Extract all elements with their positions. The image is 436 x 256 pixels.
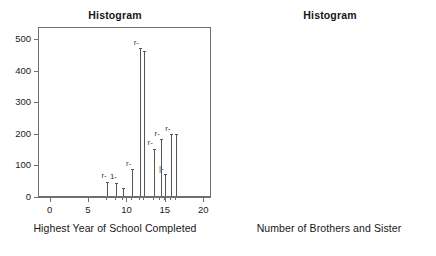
- x-tick-mark-minor: [143, 197, 144, 200]
- x-tick-mark-minor: [164, 197, 165, 200]
- x-tick-mark: [203, 197, 204, 202]
- x-tick-mark: [126, 197, 127, 202]
- histogram-panel-right: Histogram 0100200300 --1-1-r-1-1-1- 0510…: [218, 0, 436, 256]
- figure-canvas: Histogram 0100200300400500 r-1-r-r-r-r-|…: [0, 0, 436, 256]
- x-tick-mark-minor: [153, 197, 154, 200]
- histogram-bar: [171, 134, 172, 196]
- x-axis-label-right: Number of Brothers and Sister: [236, 222, 422, 234]
- bar-annotation: r-: [155, 130, 160, 138]
- x-tick-mark-minor: [122, 197, 123, 200]
- histogram-bar: [116, 183, 117, 196]
- bar-annotation: |-: [159, 165, 164, 173]
- y-tick-label: 400: [15, 65, 31, 77]
- x-tick-mark: [50, 197, 51, 202]
- x-tick-label: 0: [47, 204, 52, 216]
- y-axis-left: 0100200300400500: [0, 27, 38, 197]
- x-tick-mark-minor: [170, 197, 171, 200]
- bar-annotation: r-: [148, 139, 153, 147]
- plot-area-left: r-1-r-r-r-r-|-r-: [38, 27, 211, 197]
- x-axis-line: [38, 197, 211, 198]
- bar-annotation: r-: [101, 172, 106, 180]
- bar-annotation: r-: [126, 160, 131, 168]
- bar-annotation: r-: [134, 39, 139, 47]
- bar-annotation: r-: [165, 125, 170, 133]
- histogram-bar: [132, 169, 133, 196]
- x-axis-label-left: Highest Year of School Completed: [20, 222, 210, 234]
- x-tick-label: 5: [85, 204, 90, 216]
- x-tick-label: 15: [160, 204, 171, 216]
- chart-title-right: Histogram: [240, 9, 420, 21]
- histogram-bar: [123, 188, 124, 196]
- x-tick-mark-minor: [115, 197, 116, 200]
- y-tick-label: 200: [15, 128, 31, 140]
- x-tick-mark-minor: [131, 197, 132, 200]
- x-axis-left: 05101520: [38, 197, 211, 219]
- histogram-bar: [144, 51, 145, 196]
- y-tick-label: 100: [15, 159, 31, 171]
- histogram-bar: [107, 182, 108, 196]
- histogram-bar: [140, 48, 141, 196]
- bar-annotation: 1-: [110, 173, 117, 181]
- histogram-bar: [165, 174, 166, 196]
- x-tick-label: 20: [198, 204, 209, 216]
- y-tick-label: 300: [15, 96, 31, 108]
- y-tick-label: 500: [15, 33, 31, 45]
- x-tick-mark-minor: [175, 197, 176, 200]
- x-tick-mark-minor: [159, 197, 160, 200]
- histogram-bar: [154, 149, 155, 196]
- x-tick-mark: [88, 197, 89, 202]
- x-tick-label: 10: [121, 204, 132, 216]
- histogram-bar: [176, 134, 177, 196]
- y-tick-label: 0: [26, 191, 31, 203]
- histogram-panel-left: Histogram 0100200300400500 r-1-r-r-r-r-|…: [0, 0, 218, 256]
- x-tick-mark-minor: [106, 197, 107, 200]
- x-tick-mark-minor: [139, 197, 140, 200]
- chart-title-left: Histogram: [22, 9, 208, 21]
